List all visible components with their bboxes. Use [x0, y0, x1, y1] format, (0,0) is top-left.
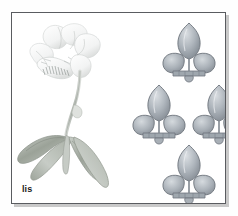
fleur-de-lis-group: [130, 21, 225, 199]
plate-frame: lis: [11, 12, 226, 204]
iris-leaves: [18, 135, 109, 187]
iris-stem: [66, 71, 82, 135]
iris-blossom: [30, 24, 100, 79]
plate-panel: lis: [12, 13, 225, 203]
iris-plant-illustration: [14, 17, 134, 203]
fleur-de-lis-top: [160, 21, 218, 83]
illustration-plate: lis: [0, 0, 238, 216]
fleur-de-lis-middle-left: [130, 83, 188, 145]
plate-caption: lis: [22, 185, 32, 194]
fleur-de-lis-middle-right: [190, 83, 225, 145]
fleur-de-lis-bottom: [160, 143, 218, 203]
